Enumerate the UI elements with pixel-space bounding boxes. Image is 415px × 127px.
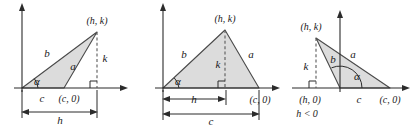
side-b-label-1: b xyxy=(44,47,50,59)
panel-3-negative-h-triangle: (h, k) b a k α (h, 0) h < 0 c (c, 0) xyxy=(285,0,415,127)
base-point-label-1: (c, 0) xyxy=(58,93,80,105)
y-axis-arrow-3 xyxy=(337,10,343,18)
base-c-label-1: c xyxy=(40,92,45,104)
angle-alpha-label-2: α xyxy=(175,75,181,87)
base-point-label-2: (c, 0) xyxy=(249,94,271,106)
y-axis-arrow-2 xyxy=(160,3,166,11)
right-angle-marker-3 xyxy=(309,81,316,88)
x-axis-arrow-3 xyxy=(402,85,410,91)
apex-point-label-1: (h, k) xyxy=(86,15,108,27)
side-a-label-3: a xyxy=(350,48,356,60)
geometry-figure: (h, k) b a k α c (c, 0) h xyxy=(0,0,415,127)
side-a-label-1: a xyxy=(70,60,76,72)
triangle-shape-3 xyxy=(316,38,390,88)
foot-point-label-3: (h, 0) xyxy=(299,94,321,106)
apex-point-label-2: (h, k) xyxy=(214,13,236,25)
condition-label-3: h < 0 xyxy=(296,108,318,119)
x-axis-arrow-2 xyxy=(272,85,280,91)
angle-alpha-label-3: α xyxy=(354,70,360,82)
side-b-label-2: b xyxy=(181,48,187,60)
height-k-label-3: k xyxy=(304,60,310,72)
base-c-label-3: c xyxy=(357,93,362,105)
h-dimension-label-1: h xyxy=(57,114,63,126)
panel-1-obtuse-triangle: (h, k) b a k α c (c, 0) h xyxy=(0,0,140,127)
side-a-label-2: a xyxy=(248,48,254,60)
right-angle-marker-1 xyxy=(90,81,97,88)
panel-2-acute-triangle: (h, k) b a k α (c, 0) h c xyxy=(140,0,285,127)
apex-point-label-3: (h, k) xyxy=(300,21,322,33)
angle-alpha-label-1: α xyxy=(34,75,40,87)
height-k-label-1: k xyxy=(103,52,109,64)
x-axis-arrow-1 xyxy=(120,85,128,91)
h-dimension-label-2: h xyxy=(191,93,197,105)
c-dimension-label-2: c xyxy=(209,115,214,127)
h-dim-arrow-right-2 xyxy=(218,96,226,102)
y-axis-arrow-1 xyxy=(19,3,25,11)
side-b-label-3: b xyxy=(330,53,336,65)
base-point-label-3: (c, 0) xyxy=(379,94,401,106)
